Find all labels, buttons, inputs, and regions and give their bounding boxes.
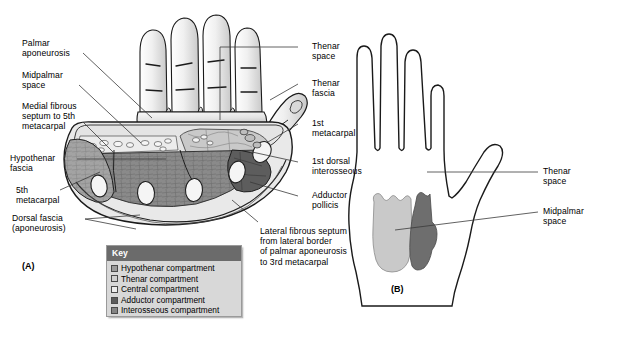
key-item-central-compartment: Central compartment bbox=[111, 284, 241, 295]
key-swatch-interosseous-compartment bbox=[111, 307, 118, 314]
key-label-hypothenar-compartment: Hypothenar compartment bbox=[121, 263, 215, 274]
label-thenar-fascia: Thenar fascia bbox=[312, 78, 382, 98]
label-1st-dorsal-interosseous: 1st dorsal interosseous bbox=[312, 156, 392, 176]
label-1st-metacarpal: 1st metacarpal bbox=[312, 118, 392, 138]
key-label-adductor-compartment: Adductor compartment bbox=[121, 295, 205, 306]
key-title: Key bbox=[107, 246, 241, 261]
key-item-thenar-compartment: Thenar compartment bbox=[111, 274, 241, 285]
key-item-interosseous-compartment: Interosseous compartment bbox=[111, 305, 241, 316]
label-midpalmar-space: Midpalmar space bbox=[22, 70, 102, 90]
key-label-thenar-compartment: Thenar compartment bbox=[121, 274, 198, 285]
key-legend: Key Hypothenar compartment Thenar compar… bbox=[106, 245, 242, 317]
key-label-central-compartment: Central compartment bbox=[121, 284, 198, 295]
key-swatch-adductor-compartment bbox=[111, 297, 118, 304]
key-label-interosseous-compartment: Interosseous compartment bbox=[121, 305, 219, 316]
finger-index bbox=[140, 30, 167, 112]
label-palmar-aponeurosis: Palmar aponeurosis bbox=[22, 38, 102, 58]
label-medial-fibrous-septum: Medial fibrous septum to 5th metacarpal bbox=[22, 101, 108, 132]
label-lateral-fibrous-septum: Lateral fibrous septum from lateral bord… bbox=[260, 226, 390, 267]
key-swatch-thenar-compartment bbox=[111, 275, 118, 282]
panel-label-b: (B) bbox=[391, 284, 404, 294]
label-b-midpalmar-space: Midpalmar space bbox=[543, 206, 623, 226]
key-item-list: Hypothenar compartment Thenar compartmen… bbox=[107, 261, 241, 316]
label-thenar-space: Thenar space bbox=[312, 41, 382, 61]
key-item-adductor-compartment: Adductor compartment bbox=[111, 295, 241, 306]
key-swatch-central-compartment bbox=[111, 286, 118, 293]
label-5th-metacarpal: 5th metacarpal bbox=[16, 185, 96, 205]
panel-label-a: (A) bbox=[22, 261, 35, 271]
key-item-hypothenar-compartment: Hypothenar compartment bbox=[111, 263, 241, 274]
finger-middle bbox=[171, 18, 199, 112]
label-b-thenar-space: Thenar space bbox=[543, 166, 613, 186]
key-swatch-hypothenar-compartment bbox=[111, 265, 118, 272]
label-dorsal-fascia: Dorsal fascia (aponeurosis) bbox=[12, 213, 102, 233]
finger-little bbox=[235, 28, 262, 112]
anatomy-figure: Palmar aponeurosis Midpalmar space Media… bbox=[0, 0, 631, 341]
label-adductor-pollicis: Adductor pollicis bbox=[312, 190, 384, 210]
finger-ring bbox=[203, 15, 231, 112]
label-hypothenar-fascia: Hypothenar fascia bbox=[10, 153, 90, 173]
finger-group bbox=[140, 15, 262, 112]
